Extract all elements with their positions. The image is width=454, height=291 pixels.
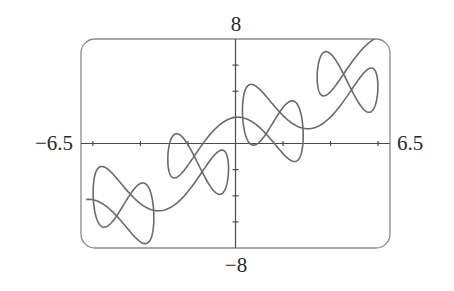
x-max-label: 6.5 xyxy=(397,131,423,155)
parametric-plot: −6.5 6.5 8 −8 xyxy=(0,0,454,291)
y-min-label: −8 xyxy=(225,253,247,277)
y-max-label: 8 xyxy=(231,12,242,36)
x-min-label: −6.5 xyxy=(35,131,73,155)
